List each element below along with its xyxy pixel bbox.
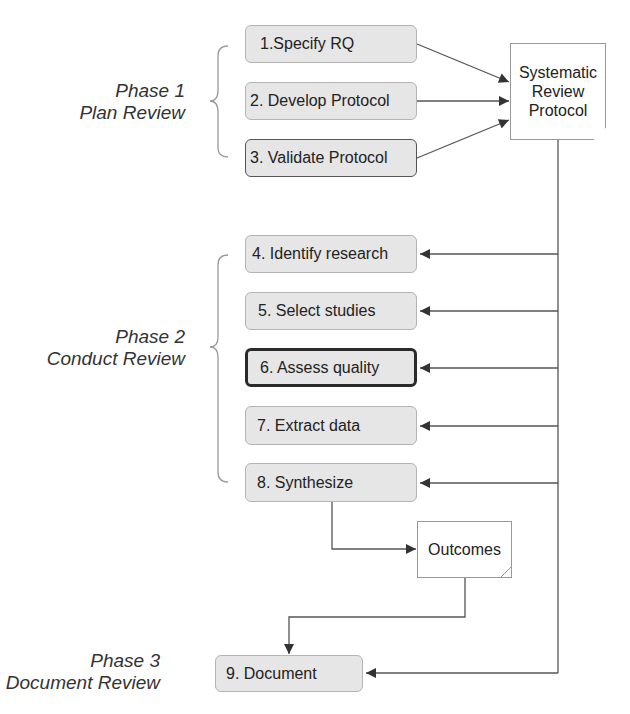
page-curl-icon — [500, 566, 512, 578]
systematic-review-protocol-document[interactable]: Systematic Review Protocol — [510, 43, 606, 140]
phase-title: Phase 2 — [20, 326, 185, 348]
step-develop-protocol[interactable]: 2. Develop Protocol — [245, 82, 417, 120]
protocol-line-3: Protocol — [519, 101, 597, 120]
phase-1-label: Phase 1 Plan Review — [40, 80, 185, 124]
page-curl-icon — [594, 128, 606, 140]
step-validate-protocol[interactable]: 3. Validate Protocol — [245, 139, 417, 177]
step-document[interactable]: 9. Document — [215, 655, 363, 692]
outcomes-label: Outcomes — [428, 540, 501, 559]
step-assess-quality[interactable]: 6. Assess quality — [245, 348, 417, 387]
phase-2-label: Phase 2 Conduct Review — [20, 326, 185, 370]
phase-title: Phase 3 — [0, 650, 160, 672]
phase-subtitle: Plan Review — [40, 102, 185, 124]
phase-subtitle: Document Review — [0, 672, 160, 694]
protocol-line-1: Systematic — [519, 63, 597, 82]
phase-3-label: Phase 3 Document Review — [0, 650, 160, 694]
phase-title: Phase 1 — [40, 80, 185, 102]
protocol-line-2: Review — [519, 82, 597, 101]
phase-subtitle: Conduct Review — [20, 348, 185, 370]
step-extract-data[interactable]: 7. Extract data — [245, 406, 417, 445]
step-synthesize[interactable]: 8. Synthesize — [245, 463, 417, 502]
step-identify-research[interactable]: 4. Identify research — [245, 235, 417, 273]
outcomes-document[interactable]: Outcomes — [417, 521, 512, 578]
step-specify-rq[interactable]: 1.Specify RQ — [245, 25, 417, 63]
step-select-studies[interactable]: 5. Select studies — [245, 292, 417, 330]
